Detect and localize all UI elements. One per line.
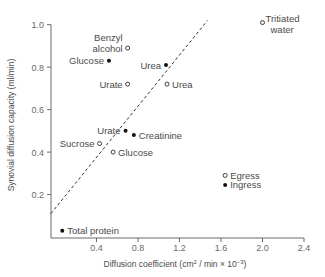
open-circle-marker-icon [165, 82, 169, 86]
filled-circle-marker-icon [107, 59, 111, 63]
y-axis-title: Synovial diffusion capacity (ml/min) [6, 59, 16, 192]
x-tick-label: 2.0 [256, 243, 269, 253]
point-label: Glucose [118, 147, 153, 158]
data-point-egress: Egress [223, 170, 260, 181]
point-label: Tritiated [266, 13, 300, 24]
point-label: Urate [99, 79, 122, 90]
data-point-sucrose: Sucrose [60, 138, 102, 149]
data-point-benzyl-alcohol: Benzylalcohol [93, 32, 130, 54]
point-label: Sucrose [60, 138, 95, 149]
data-point-glucose: Glucose [111, 147, 153, 158]
point-label: Creatinine [139, 130, 182, 141]
data-point-ingress: Ingress [223, 179, 261, 190]
open-circle-marker-icon [98, 142, 102, 146]
data-point-tritiated-water: Tritiatedwater [261, 13, 300, 35]
x-tick-label: 0.8 [132, 243, 145, 253]
x-tick-label: 2.4 [298, 243, 311, 253]
filled-circle-marker-icon [60, 229, 64, 233]
point-label: Glucose [69, 55, 104, 66]
point-label: Total protein [67, 225, 119, 236]
data-point-glucose: Glucose [69, 55, 111, 66]
x-tick-label: 1.2 [173, 243, 186, 253]
open-circle-marker-icon [126, 82, 130, 86]
y-tick-label: 1.0 [31, 20, 44, 30]
filled-circle-marker-icon [164, 63, 168, 67]
y-tick-label: 0.8 [31, 63, 44, 73]
scatter-chart: 0.20.40.60.81.00.40.81.21.62.02.4 Glucos… [0, 0, 325, 277]
x-tick-label: 0.4 [90, 243, 103, 253]
filled-circle-marker-icon [223, 183, 227, 187]
open-circle-marker-icon [261, 21, 265, 25]
y-tick-label: 0.6 [31, 105, 44, 115]
open-circle-marker-icon [111, 150, 115, 154]
y-tick-label: 0.4 [31, 148, 44, 158]
data-points: GlucoseUreaUrateCreatinineIngressTotal p… [60, 13, 300, 237]
y-tick-label: 0.2 [31, 190, 44, 200]
data-point-urea: Urea [140, 60, 168, 71]
point-label: Urate [97, 125, 120, 136]
point-label: Egress [230, 170, 260, 181]
point-label: water [270, 24, 294, 35]
data-point-creatinine: Creatinine [132, 130, 182, 141]
point-label: Benzyl [94, 32, 123, 43]
data-point-urea: Urea [165, 79, 193, 90]
point-label: alcohol [93, 43, 123, 54]
data-point-total-protein: Total protein [60, 225, 119, 236]
point-label: Ingress [230, 179, 261, 190]
data-point-urate: Urate [97, 125, 127, 136]
filled-circle-marker-icon [124, 129, 128, 133]
x-tick-label: 1.6 [215, 243, 228, 253]
open-circle-marker-icon [223, 173, 227, 177]
filled-circle-marker-icon [132, 133, 136, 137]
open-circle-marker-icon [126, 46, 130, 50]
data-point-urate: Urate [99, 79, 129, 90]
point-label: Urea [140, 60, 161, 71]
point-label: Urea [172, 79, 193, 90]
x-axis-title: Diffusion coefficient (cm2 / min × 10−3) [104, 259, 247, 269]
